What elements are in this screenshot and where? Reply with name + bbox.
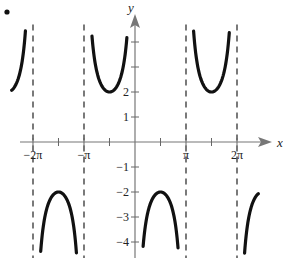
y-tick-label: −1 xyxy=(116,160,129,174)
y-tick-label: −3 xyxy=(116,210,129,224)
y-axis-label: y xyxy=(126,0,134,15)
curve-branch xyxy=(92,36,127,92)
x-tick-label: 2π xyxy=(231,148,243,162)
curve-branch xyxy=(41,192,77,253)
y-tick-label: −4 xyxy=(116,235,129,249)
curve-branch xyxy=(245,194,259,253)
y-tick-label: 2 xyxy=(123,85,129,99)
curve-branch xyxy=(12,31,26,90)
axis-ticks: −2π−ππ2π21−1−2−3−4 xyxy=(24,42,243,249)
bullet-marker xyxy=(4,9,9,14)
y-tick-label: −2 xyxy=(116,185,129,199)
curve-branch xyxy=(143,192,178,248)
curve-branch xyxy=(194,31,230,92)
axes: x y xyxy=(20,0,283,258)
y-tick-label: 1 xyxy=(123,110,129,124)
graph-plot: x y −2π−ππ2π21−1−2−3−4 xyxy=(0,0,283,258)
x-axis-label: x xyxy=(276,135,283,150)
x-tick-label: −π xyxy=(78,148,91,162)
x-tick-label: −2π xyxy=(24,148,43,162)
x-tick-label: π xyxy=(183,148,189,162)
